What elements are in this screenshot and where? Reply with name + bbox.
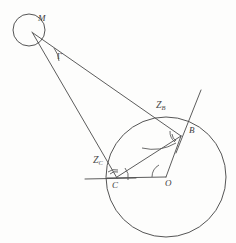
geometry-diagram: M B C O Γ ZB ZC	[0, 0, 236, 243]
tangent-line-at-b	[176, 90, 201, 153]
angle-label-zb-base: Z	[156, 99, 162, 110]
point-label-c: C	[112, 181, 118, 190]
angle-arc-at-o	[152, 165, 159, 177]
angle-label-zc-sub: C	[99, 159, 103, 166]
radius-o-to-c	[107, 177, 166, 178]
angle-label-zb: ZB	[156, 100, 166, 110]
line-m-to-c	[32, 32, 117, 178]
geometry-canvas	[0, 0, 236, 243]
point-label-m: M	[38, 14, 46, 23]
radius-o-to-b	[166, 136, 181, 177]
angle-label-zb-sub: B	[162, 104, 166, 111]
line-m-to-b	[33, 33, 181, 136]
angle-arc-zb-wide	[142, 143, 176, 149]
angle-label-gamma: Γ	[57, 52, 62, 61]
point-label-b: B	[189, 126, 195, 135]
point-label-o: O	[165, 179, 172, 188]
angle-label-zc: ZC	[93, 155, 103, 165]
angle-label-zc-base: Z	[93, 154, 99, 165]
